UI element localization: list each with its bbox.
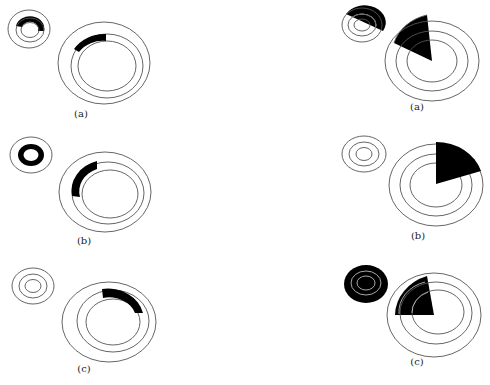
right-a-large-target <box>385 15 479 101</box>
caption-left-c: (c) <box>77 363 90 374</box>
right-c-large-target <box>387 273 481 357</box>
left-a-large-target <box>58 22 150 104</box>
left-b-large-target <box>59 152 151 232</box>
caption-left-a: (a) <box>74 108 88 119</box>
figure-canvas <box>0 0 490 385</box>
left-b-small-target <box>10 137 52 173</box>
right-b-large-target <box>389 142 483 226</box>
caption-right-b: (b) <box>411 230 425 241</box>
right-a-small-target <box>342 5 386 42</box>
right-b-small-target <box>342 136 386 172</box>
left-a-small-target <box>8 10 50 48</box>
left-c-small-target <box>12 268 54 304</box>
right-c-small-target <box>344 265 388 303</box>
left-c-large-target <box>62 282 156 362</box>
caption-left-b: (b) <box>77 235 91 246</box>
caption-right-c: (c) <box>410 356 423 367</box>
caption-right-a: (a) <box>410 101 424 112</box>
